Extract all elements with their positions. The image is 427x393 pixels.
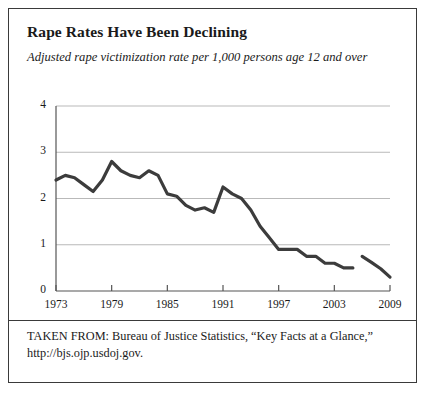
x-axis-tick-label: 1979 [90, 298, 134, 310]
x-axis-tick-label: 1973 [34, 298, 78, 310]
x-axis-tick-label: 2009 [368, 298, 412, 310]
x-axis-tick-label: 2003 [312, 298, 356, 310]
source-note: TAKEN FROM: Bureau of Justice Statistics… [27, 328, 404, 363]
y-axis-tick-label: 3 [26, 144, 46, 156]
source-divider [9, 320, 416, 321]
x-axis-tick-label: 1985 [145, 298, 189, 310]
x-axis-tick-label: 1997 [257, 298, 301, 310]
y-axis-tick-label: 1 [26, 237, 46, 249]
y-axis-tick-label: 2 [26, 191, 46, 203]
x-axis-tick-label: 1991 [201, 298, 245, 310]
data-line-segment-2 [362, 256, 390, 277]
data-line-segment-1 [56, 162, 353, 268]
figure-card: Rape Rates Have Been Declining Adjusted … [8, 8, 417, 383]
y-axis-tick-label: 4 [26, 98, 46, 110]
source-prefix: TAKEN FROM: Bureau of Justice Statistics… [27, 329, 373, 343]
y-axis-tick-label: 0 [26, 283, 46, 295]
source-url: http://bjs.ojp.usdoj.gov. [27, 346, 143, 360]
